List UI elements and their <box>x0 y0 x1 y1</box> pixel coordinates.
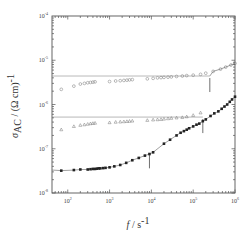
x-tick-label: 102 <box>64 196 72 204</box>
y-tick-label: 10-4 <box>39 11 48 19</box>
data-point <box>146 77 149 80</box>
data-point <box>146 119 149 122</box>
data-point <box>60 128 63 131</box>
data-point <box>188 127 191 130</box>
y-tick-label: 10-8 <box>39 188 48 196</box>
data-point <box>226 103 229 106</box>
data-point <box>60 169 63 172</box>
data-point <box>119 120 122 123</box>
data-point <box>86 168 89 171</box>
data-point <box>179 131 182 134</box>
data-point <box>83 123 86 126</box>
data-point <box>213 112 216 115</box>
data-point <box>137 157 140 160</box>
data-point <box>79 124 82 127</box>
data-point <box>156 118 159 121</box>
data-point <box>163 142 166 145</box>
x-tick-label: 104 <box>147 196 155 204</box>
data-point <box>162 117 165 120</box>
data-point <box>72 125 75 128</box>
data-point <box>160 76 163 79</box>
data-point <box>160 118 163 121</box>
data-point <box>192 125 195 128</box>
x-tick-label: 106 <box>231 196 239 204</box>
data-point <box>113 165 116 168</box>
x-axis-ticks: 102103104105106 <box>55 16 239 204</box>
data-point <box>131 159 134 162</box>
data-point <box>144 154 147 157</box>
data-point <box>125 162 128 165</box>
data-point <box>128 120 131 123</box>
plot-area <box>52 16 235 193</box>
y-axis-title: σAC / (Ω cm)-1 <box>5 74 23 138</box>
data-point <box>163 76 166 79</box>
data-point <box>204 118 207 121</box>
data-point <box>114 80 117 83</box>
data-point <box>175 116 178 119</box>
data-point <box>73 169 76 172</box>
series-open-circle <box>52 62 236 92</box>
data-point <box>185 74 188 77</box>
x-axis-title: f / s-1 <box>127 215 150 230</box>
data-point <box>234 95 237 98</box>
data-point <box>102 167 105 170</box>
data-point <box>198 122 201 125</box>
plot-frame <box>52 16 235 193</box>
data-point <box>183 130 186 133</box>
data-point <box>119 164 122 167</box>
data-point <box>122 79 125 82</box>
data-point <box>72 85 75 88</box>
data-point <box>152 118 155 121</box>
conductivity-frequency-chart: 102103104105106 10-410-510-610-710-8 f /… <box>0 0 249 240</box>
data-point <box>202 120 205 123</box>
data-point <box>209 115 212 118</box>
data-point <box>83 82 86 85</box>
data-point <box>220 107 223 110</box>
data-point <box>122 120 125 123</box>
data-point <box>89 168 92 171</box>
data-point <box>169 138 172 141</box>
data-point <box>192 114 195 117</box>
data-point <box>195 123 198 126</box>
data-point <box>167 117 170 120</box>
y-tick-label: 10-6 <box>39 100 48 108</box>
y-tick-label: 10-5 <box>39 55 48 63</box>
data-point <box>231 98 234 101</box>
data-point <box>94 121 97 124</box>
data-point <box>79 83 82 86</box>
data-point <box>175 134 178 137</box>
data-point <box>108 80 111 83</box>
data-point <box>99 167 102 170</box>
data-series-layer <box>52 62 236 172</box>
data-point <box>79 168 82 171</box>
data-point <box>156 76 159 79</box>
fit-curve <box>52 97 235 171</box>
series-filled-square <box>52 95 236 172</box>
data-point <box>114 121 117 124</box>
data-point <box>217 110 220 113</box>
x-tick-label: 103 <box>106 196 114 204</box>
data-point <box>152 77 155 80</box>
data-point <box>104 167 107 170</box>
data-point <box>152 151 155 154</box>
data-point <box>60 88 63 91</box>
data-point <box>86 81 89 84</box>
data-point <box>119 79 122 82</box>
data-point <box>131 78 134 81</box>
data-point <box>185 115 188 118</box>
data-point <box>199 111 202 114</box>
series-open-triangle <box>52 111 203 133</box>
data-point <box>228 101 231 104</box>
data-point <box>204 72 207 75</box>
data-point <box>223 105 226 108</box>
data-point <box>185 128 188 131</box>
data-point <box>108 121 111 124</box>
x-tick-label: 105 <box>189 196 197 204</box>
data-point <box>199 73 202 76</box>
data-point <box>175 75 178 78</box>
y-tick-label: 10-7 <box>39 144 48 152</box>
data-point <box>131 119 134 122</box>
fit-curve <box>210 63 235 76</box>
data-point <box>108 166 111 169</box>
y-axis-ticks: 10-410-510-610-710-8 <box>39 11 235 196</box>
